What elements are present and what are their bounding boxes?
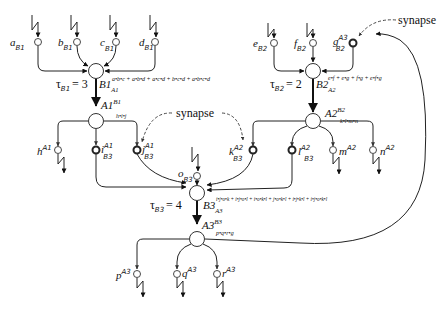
synapse-i[interactable]	[93, 147, 100, 154]
label-d: dB1	[139, 36, 154, 52]
spike-icon-c	[110, 15, 116, 37]
label-q: qA3	[182, 266, 197, 279]
label-b: bB1	[58, 36, 73, 52]
synapse-m[interactable]	[330, 147, 337, 154]
synapse-annotation-middle: synapse	[176, 106, 214, 120]
spike-icon-p	[137, 278, 143, 297]
spike-icon-e	[268, 23, 274, 38]
expr-b3: i•j•o•k + i•j•o•l + i•o•k•l + j•o•k•l + …	[216, 196, 328, 202]
label-g: gA3B2	[333, 34, 348, 53]
synapse-n[interactable]	[370, 147, 377, 154]
synapse-annotation-top: synapse	[398, 13, 436, 27]
synapse-h[interactable]	[55, 147, 62, 154]
synapse-e[interactable]	[271, 40, 278, 47]
neuron-b2[interactable]	[306, 64, 321, 79]
label-p: pA3	[115, 268, 131, 281]
label-f: fB2	[294, 37, 307, 53]
label-i: iA1B3	[101, 142, 113, 161]
tau-b2: τB2= 2	[270, 77, 302, 93]
neuron-b1[interactable]	[89, 64, 104, 79]
spike-icon-o	[192, 147, 198, 171]
neural-circuit-diagram: aB1 bB1 cB1 dB1 τB1= 3 B1A1 a•b•c + a•b•…	[0, 0, 445, 315]
synapse-k[interactable]	[250, 147, 257, 154]
label-j: jA1B3	[140, 142, 154, 161]
synapse-b[interactable]	[74, 39, 81, 46]
neuron-a1[interactable]	[89, 114, 104, 129]
synapse-p[interactable]	[134, 271, 141, 278]
label-e: eB2	[253, 37, 268, 53]
synapse-q[interactable]	[174, 271, 181, 278]
spike-icon-r	[217, 278, 223, 297]
neuron-a2[interactable]	[306, 114, 321, 129]
label-n: nA2	[380, 144, 395, 157]
expr-a3: p•q•r•g	[215, 230, 234, 236]
synapse-l[interactable]	[289, 147, 296, 154]
spike-icon-b	[71, 15, 77, 37]
label-r: rA3	[222, 266, 236, 279]
synapse-f[interactable]	[310, 40, 317, 47]
spike-icon-n	[373, 154, 379, 174]
synapse-a[interactable]	[35, 39, 42, 46]
tau-b1: τB1= 3	[56, 77, 88, 93]
label-m: mA2	[339, 144, 357, 157]
spike-icon-f	[307, 23, 313, 38]
spike-icon-h	[58, 154, 64, 173]
neuron-a3[interactable]	[190, 232, 205, 247]
synapse-r[interactable]	[214, 271, 221, 278]
label-a: aB1	[10, 36, 25, 52]
spike-icon-a	[32, 15, 38, 37]
synapse-g[interactable]	[350, 40, 357, 47]
label-c: cB1	[100, 36, 114, 53]
label-h: hA1	[37, 144, 52, 157]
input-spike-icons-b1	[32, 15, 156, 37]
expr-b1: a•b•c + a•b•d + a•c•d + b•c•d + a•b•c•d	[112, 76, 211, 82]
spike-icon-m	[333, 154, 339, 174]
synapse-o[interactable]	[194, 173, 201, 180]
synapse-j[interactable]	[134, 147, 141, 154]
label-a1: A1B1	[100, 98, 121, 111]
spike-icon-q	[177, 278, 183, 297]
label-k: kA2B3	[229, 144, 244, 163]
label-o: oB3	[178, 167, 193, 184]
expr-a1: h•i•j	[116, 113, 127, 119]
expr-b2: e•f + e•g + f•g + e•f•g	[328, 75, 382, 81]
tau-b3: τB3= 4	[150, 198, 182, 214]
spike-icon-d	[150, 15, 156, 37]
label-l: lA2B3	[298, 144, 314, 163]
